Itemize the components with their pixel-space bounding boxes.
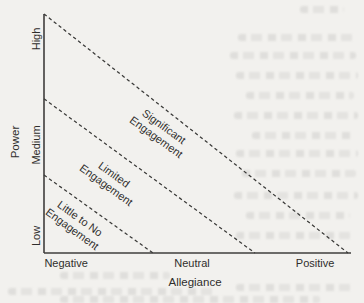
y-axis-title: Power — [9, 126, 21, 159]
x-tick-negative: Negative — [44, 257, 87, 269]
y-tick-high: High — [30, 28, 42, 51]
x-tick-neutral: Neutral — [174, 257, 209, 269]
x-tick-positive: Positive — [296, 257, 335, 269]
y-tick-low: Low — [30, 226, 42, 246]
x-axis-title: Allegiance — [168, 276, 221, 288]
y-tick-medium: Medium — [30, 125, 42, 164]
